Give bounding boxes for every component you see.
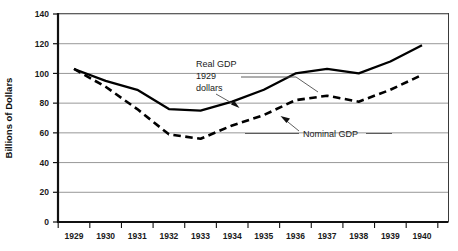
real-gdp-label-line1: Real GDP	[196, 59, 237, 69]
y-tick-label-80: 80	[40, 98, 50, 108]
real-gdp-label-line2: 1929	[196, 71, 216, 81]
x-tick-label-1935: 1935	[254, 231, 273, 241]
gdp-line-chart: 140120100806040200 192919301931193219331…	[0, 0, 458, 251]
nominal-gdp-label: Nominal GDP	[303, 129, 358, 139]
x-tick-label-1931: 1931	[128, 231, 147, 241]
x-tick-label-1937: 1937	[318, 231, 337, 241]
x-tick-label-1929: 1929	[65, 231, 84, 241]
x-tick-label-1940: 1940	[413, 231, 432, 241]
real-gdp-label-line3: dollars	[196, 83, 223, 93]
y-tick-label-120: 120	[35, 39, 49, 49]
x-tick-label-1933: 1933	[191, 231, 210, 241]
y-axis-title: Billions of Dollars	[3, 78, 14, 159]
y-tick-label-20: 20	[40, 187, 50, 197]
y-tick-label-0: 0	[44, 217, 49, 227]
chart-figure: 140120100806040200 192919301931193219331…	[0, 0, 458, 251]
y-tick-label-100: 100	[35, 69, 49, 79]
y-tick-label-60: 60	[40, 128, 50, 138]
x-tick-label-1934: 1934	[223, 231, 242, 241]
y-tick-label-40: 40	[40, 158, 50, 168]
x-tick-label-1932: 1932	[159, 231, 178, 241]
x-tick-label-1938: 1938	[349, 231, 368, 241]
y-tick-label-140: 140	[35, 9, 49, 19]
x-tick-label-1936: 1936	[286, 231, 305, 241]
x-tick-label-1930: 1930	[96, 231, 115, 241]
x-tick-label-1939: 1939	[381, 231, 400, 241]
chart-background	[0, 0, 458, 251]
